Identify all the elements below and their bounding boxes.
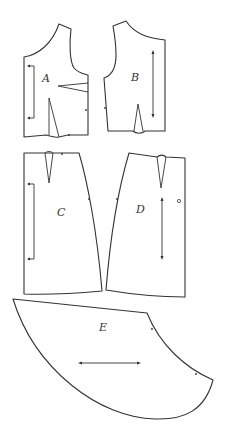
arrow-icon	[27, 117, 30, 120]
notch-marker	[104, 107, 106, 109]
notch-marker	[61, 153, 63, 155]
piece-a-fold-bracket	[28, 66, 34, 118]
arrow-icon	[161, 256, 164, 260]
piece-b-waist-dart	[134, 104, 143, 131]
arrow-icon	[152, 114, 155, 118]
piece-d-outline	[106, 153, 185, 297]
arrow-icon	[137, 362, 141, 365]
piece-e: E	[13, 299, 213, 419]
notch-marker	[151, 328, 153, 330]
piece-e-label: E	[98, 321, 107, 334]
piece-d-waist-dart	[157, 157, 166, 188]
pattern-diagram: A B C D E	[0, 0, 229, 433]
arrow-icon	[161, 197, 164, 201]
piece-a: A	[24, 24, 88, 137]
arrow-icon	[27, 258, 30, 261]
notch-marker	[68, 134, 70, 136]
piece-c-label: C	[57, 206, 66, 219]
notch-marker	[85, 109, 87, 111]
piece-d-label: D	[135, 203, 145, 216]
piece-d: D	[106, 153, 185, 297]
circle-marker	[177, 199, 180, 202]
notch-marker	[116, 198, 118, 200]
piece-a-waist-dart	[49, 98, 59, 137]
piece-a-side-dart	[58, 83, 88, 92]
arrow-icon	[78, 362, 82, 365]
piece-a-label: A	[41, 72, 50, 85]
arrow-icon	[152, 50, 155, 54]
piece-e-outline	[13, 299, 213, 419]
notch-marker	[88, 198, 90, 200]
piece-c-outline	[24, 153, 102, 294]
notch-marker	[195, 373, 197, 375]
arrow-icon	[27, 183, 30, 186]
piece-c-waist-dart	[45, 152, 53, 184]
piece-c: C	[24, 152, 102, 295]
piece-c-fold-bracket	[28, 184, 34, 259]
arrow-icon	[27, 65, 30, 68]
piece-b: B	[104, 21, 165, 133]
piece-b-label: B	[130, 71, 139, 84]
